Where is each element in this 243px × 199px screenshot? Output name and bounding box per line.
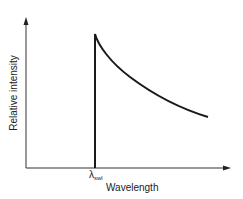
chart-canvas: [0, 0, 243, 199]
cutoff-subscript: swl: [94, 175, 103, 181]
cutoff-wavelength-label: λswl: [89, 169, 103, 181]
y-axis-arrow-icon: [24, 17, 29, 25]
x-axis-label: Wavelength: [106, 182, 158, 193]
x-axis-arrow-icon: [223, 166, 231, 171]
spectrum-curve: [95, 34, 208, 168]
y-axis-label: Relative intensity: [8, 55, 19, 131]
